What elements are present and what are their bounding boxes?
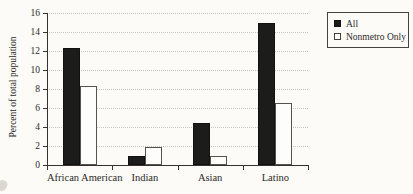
x-category-label-asian: Asian xyxy=(178,172,243,183)
y-tick-label-12: 12 xyxy=(14,47,40,56)
legend-item-nonmetro-only: Nonmetro Only xyxy=(334,30,403,43)
x-category-label-indian: Indian xyxy=(112,172,177,183)
bar-chart-figure: Percent of total population 024681012141… xyxy=(0,0,413,194)
bar-all-indian xyxy=(128,156,145,166)
plot-area xyxy=(47,13,308,165)
y-tick-label-10: 10 xyxy=(14,66,40,75)
x-category-label-african-american: African American xyxy=(47,172,112,183)
legend-swatch-nonmetro-only xyxy=(334,33,341,40)
y-tick-label-0: 0 xyxy=(14,161,40,170)
bar-nonmetro-only-african-american xyxy=(80,86,97,165)
y-tick-mark-16 xyxy=(43,13,47,14)
bar-all-african-american xyxy=(63,48,80,165)
x-tick-mark-2 xyxy=(178,166,179,170)
legend-label-nonmetro-only: Nonmetro Only xyxy=(346,32,406,42)
y-tick-label-4: 4 xyxy=(14,123,40,132)
y-tick-mark-8 xyxy=(43,89,47,90)
bar-nonmetro-only-indian xyxy=(145,147,162,165)
y-tick-mark-2 xyxy=(43,146,47,147)
legend-label-all: All xyxy=(346,19,358,29)
legend-items: AllNonmetro Only xyxy=(334,17,403,43)
gridline-y-16 xyxy=(47,13,308,14)
y-tick-label-14: 14 xyxy=(14,28,40,37)
y-tick-label-2: 2 xyxy=(14,142,40,151)
legend: AllNonmetro Only xyxy=(327,12,409,48)
scan-smudge-artifact xyxy=(0,179,9,193)
legend-item-all: All xyxy=(334,17,403,30)
bar-all-asian xyxy=(193,123,210,165)
y-tick-mark-12 xyxy=(43,51,47,52)
bar-nonmetro-only-asian xyxy=(210,156,227,165)
y-tick-label-8: 8 xyxy=(14,85,40,94)
x-tick-mark-3 xyxy=(243,166,244,170)
legend-swatch-all xyxy=(334,20,341,27)
y-tick-label-6: 6 xyxy=(14,104,40,113)
x-tick-mark-4 xyxy=(308,166,309,170)
y-axis-line xyxy=(47,13,48,166)
x-tick-mark-0 xyxy=(47,166,48,170)
x-category-label-latino: Latino xyxy=(243,172,308,183)
y-tick-mark-14 xyxy=(43,32,47,33)
y-tick-label-16: 16 xyxy=(14,9,40,18)
x-tick-mark-1 xyxy=(112,166,113,170)
y-tick-mark-6 xyxy=(43,108,47,109)
bar-nonmetro-only-latino xyxy=(275,103,292,165)
y-tick-mark-4 xyxy=(43,127,47,128)
y-tick-mark-10 xyxy=(43,70,47,71)
bar-all-latino xyxy=(258,23,275,166)
